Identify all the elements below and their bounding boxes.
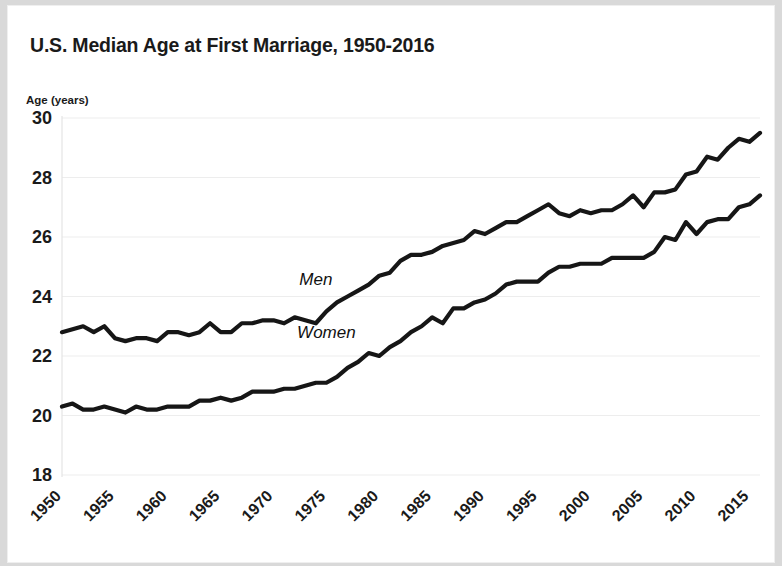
x-tick-label: 2010 [661,487,698,524]
x-tick-label: 1960 [133,487,170,524]
y-axis-ticks: 30282624222018 [32,108,52,485]
x-tick-label: 1970 [238,487,275,524]
x-tick-label: 1955 [80,487,117,524]
plot-area: 30282624222018 1950195519601965197019751… [8,6,774,562]
series-label-men: Men [299,270,332,289]
series-label-women: Women [297,323,356,342]
gridlines [62,116,760,477]
x-tick-label: 1985 [397,487,434,524]
chart-card: U.S. Median Age at First Marriage, 1950-… [8,6,774,562]
data-series-group [62,133,760,413]
x-tick-label: 2000 [556,487,593,524]
x-tick-label: 1950 [27,487,64,524]
x-tick-label: 2005 [609,487,646,524]
x-tick-label: 2015 [714,487,751,524]
x-tick-label: 1965 [186,487,223,524]
y-tick-label: 22 [32,346,52,366]
y-tick-label: 28 [32,168,52,188]
y-tick-label: 26 [32,227,52,247]
series-line-women [62,195,760,412]
x-axis-ticks: 1950195519601965197019751980198519901995… [27,487,752,524]
y-tick-label: 24 [32,287,52,307]
x-tick-label: 1990 [450,487,487,524]
x-tick-label: 1980 [344,487,381,524]
x-tick-label: 1995 [503,487,540,524]
y-tick-label: 30 [32,108,52,128]
y-tick-label: 20 [32,406,52,426]
line-chart-svg: 30282624222018 1950195519601965197019751… [8,6,774,562]
y-tick-label: 18 [32,465,52,485]
series-labels-group: MenWomen [297,270,356,343]
x-tick-label: 1975 [291,487,328,524]
